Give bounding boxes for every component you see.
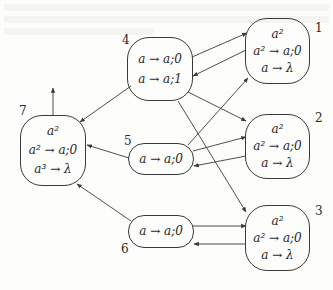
node-6-label: 6 — [121, 242, 129, 256]
node-2-label: 2 — [315, 111, 323, 125]
node-1-label: 1 — [315, 21, 323, 35]
node-4-label: 4 — [122, 33, 130, 47]
edge-4-to-2 — [188, 92, 246, 121]
node-2-line-2: a² → a;0 — [253, 138, 301, 155]
node-1-line-3: a → λ — [261, 60, 293, 77]
node-3-label: 3 — [315, 204, 323, 218]
state-node-1: a² a² → a;0 a → λ — [245, 18, 310, 84]
node-7-line-3: a³ → λ — [34, 160, 71, 179]
node-4-line-1: a → a;0 — [138, 49, 182, 69]
state-node-4: a → a;0 a → a;1 — [127, 37, 193, 101]
edge-1-to-4 — [193, 50, 246, 76]
node-3-line-1: a² — [272, 213, 284, 230]
edge-5-to-1 — [188, 78, 248, 145]
node-5-line-1: a → a;0 — [139, 151, 183, 168]
node-4-line-2: a → a;1 — [138, 69, 182, 89]
node-3-line-2: a² → a;0 — [253, 230, 301, 247]
node-6-line-1: a → a;0 — [139, 223, 183, 240]
edge-4-to-7 — [80, 86, 131, 122]
node-7-label: 7 — [19, 104, 27, 118]
node-7-line-1: a² — [47, 122, 59, 141]
node-2-line-1: a² — [272, 121, 284, 138]
state-node-5: a → a;0 — [128, 143, 194, 175]
state-node-7: a² a² → a;0 a³ → λ — [20, 115, 86, 186]
node-7-line-2: a² → a;0 — [29, 141, 77, 160]
node-5-label: 5 — [124, 134, 132, 148]
node-1-line-2: a² → a;0 — [253, 43, 301, 60]
state-node-2: a² a² → a;0 a → λ — [245, 114, 310, 179]
edge-2-to-5 — [194, 156, 246, 166]
edge-5-to-7 — [87, 145, 129, 158]
node-2-line-3: a → λ — [261, 155, 293, 172]
edge-6-to-7 — [77, 184, 131, 221]
node-3-line-3: a → λ — [261, 247, 293, 264]
state-node-6: a → a;0 — [128, 215, 194, 248]
node-1-line-1: a² — [272, 26, 284, 43]
state-node-3: a² a² → a;0 a → λ — [245, 205, 310, 271]
